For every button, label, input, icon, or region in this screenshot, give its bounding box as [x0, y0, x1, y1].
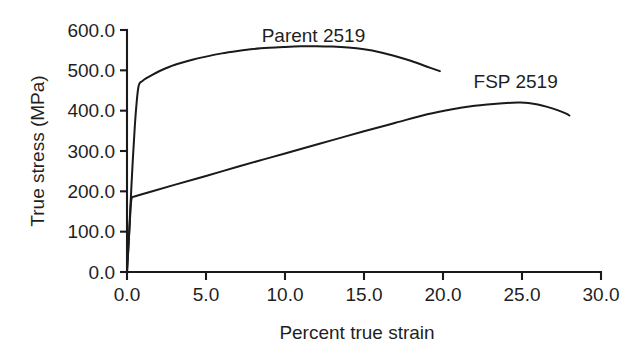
series-label-fsp-2519: FSP 2519 [474, 71, 558, 92]
y-tick-label: 200.0 [67, 181, 115, 202]
curve-parent-2519 [127, 46, 440, 272]
y-tick-label: 100.0 [67, 221, 115, 242]
x-tick-label: 25.0 [504, 284, 541, 305]
x-tick-label: 10.0 [267, 284, 304, 305]
series-annotations: Parent 2519FSP 2519 [262, 25, 558, 92]
x-axis-tick-labels: 0.05.010.015.020.025.030.0 [114, 284, 620, 305]
axes-group [120, 30, 601, 280]
x-tick-label: 5.0 [193, 284, 219, 305]
x-axis-title: Percent true strain [279, 322, 434, 343]
y-tick-label: 0.0 [89, 262, 115, 283]
stress-strain-chart: 0.0100.0200.0300.0400.0500.0600.0 0.05.0… [0, 0, 643, 357]
y-tick-label: 500.0 [67, 60, 115, 81]
x-tick-label: 20.0 [425, 284, 462, 305]
x-axis-ticks [127, 272, 601, 280]
x-tick-label: 15.0 [346, 284, 383, 305]
series-label-parent-2519: Parent 2519 [262, 25, 366, 46]
y-axis-title: True stress (MPa) [27, 75, 48, 226]
chart-page: 0.0100.0200.0300.0400.0500.0600.0 0.05.0… [0, 0, 643, 357]
x-tick-label: 30.0 [583, 284, 620, 305]
y-axis-tick-labels: 0.0100.0200.0300.0400.0500.0600.0 [67, 20, 115, 283]
y-tick-label: 600.0 [67, 20, 115, 41]
curve-fsp-2519 [127, 103, 569, 272]
y-tick-label: 400.0 [67, 100, 115, 121]
y-tick-label: 300.0 [67, 141, 115, 162]
x-tick-label: 0.0 [114, 284, 140, 305]
